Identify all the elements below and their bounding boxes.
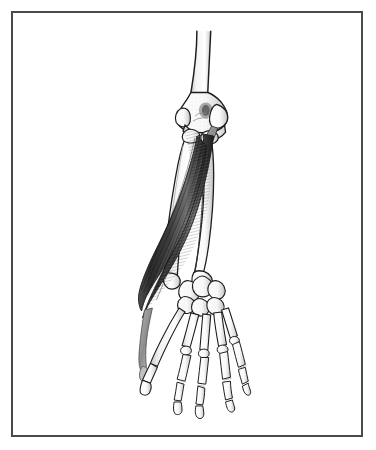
distal-phalanx-2 — [173, 402, 182, 415]
bones-carpals — [178, 276, 226, 316]
distal-phalanx-3 — [195, 406, 204, 419]
illustration-canvas: right forearm and hand skeleton with hig… — [13, 13, 361, 435]
medial-epicondyle — [175, 108, 190, 127]
forearm-anatomy-figure — [13, 13, 361, 435]
illustration-frame: right forearm and hand skeleton with hig… — [11, 11, 363, 437]
illustration-page: right forearm and hand skeleton with hig… — [0, 0, 376, 450]
middle-phalanx-3 — [196, 386, 205, 405]
olecranon-fossa-core — [202, 105, 210, 116]
thumb-distal-phalanx — [140, 380, 151, 395]
